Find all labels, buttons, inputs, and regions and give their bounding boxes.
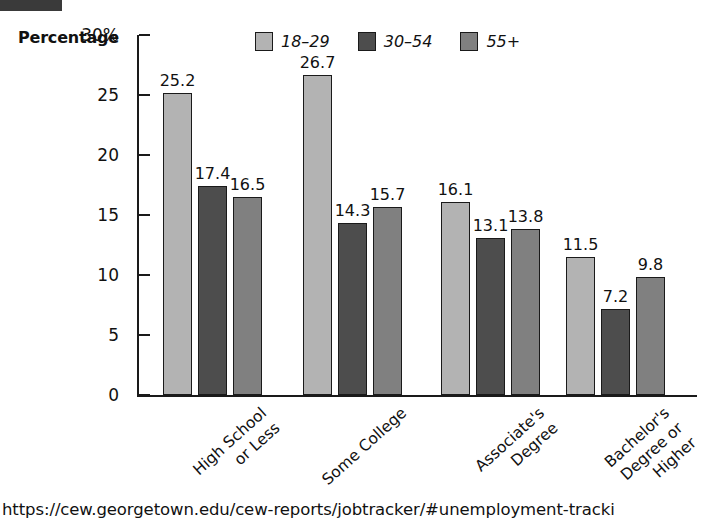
plot-area: 051015202530% 25.217.416.526.714.315.716… xyxy=(137,35,697,397)
y-tick-label: 0 xyxy=(0,385,119,405)
bar xyxy=(373,207,402,395)
top-bar-remnant xyxy=(0,0,62,11)
x-axis-line xyxy=(137,395,697,397)
bar xyxy=(198,186,227,395)
bar xyxy=(163,93,192,395)
bar xyxy=(338,223,367,395)
x-category-label: High Schoolor Less xyxy=(190,404,285,495)
bar xyxy=(476,238,505,395)
y-tick-label: 15 xyxy=(0,205,119,225)
bar-value-label: 25.2 xyxy=(148,71,208,90)
source-url: https://cew.georgetown.edu/cew-reports/j… xyxy=(2,500,615,519)
bar xyxy=(511,229,540,395)
y-tick-mark xyxy=(139,274,150,276)
bar-value-label: 16.5 xyxy=(218,175,278,194)
y-tick-mark xyxy=(139,214,150,216)
y-tick-label: 20 xyxy=(0,145,119,165)
x-category-label-line: Some College xyxy=(319,404,412,490)
y-axis-line xyxy=(137,35,139,397)
y-tick-label: 10 xyxy=(0,265,119,285)
bar-value-label: 26.7 xyxy=(288,53,348,72)
y-tick-mark xyxy=(139,94,150,96)
x-category-label: Bachelor'sDegree orHigher xyxy=(601,404,701,502)
bar xyxy=(303,75,332,395)
y-tick-label: 5 xyxy=(0,325,119,345)
y-tick-mark xyxy=(139,334,150,336)
bar-value-label: 15.7 xyxy=(358,185,418,204)
y-tick-label: 25 xyxy=(0,85,119,105)
bar xyxy=(233,197,262,395)
y-tick-mark xyxy=(139,34,150,36)
bar-value-label: 14.3 xyxy=(323,201,383,220)
bar-value-label: 7.2 xyxy=(586,287,646,306)
y-tick-label: 30% xyxy=(0,25,119,45)
bar xyxy=(601,309,630,395)
bar xyxy=(566,257,595,395)
bar-value-label: 11.5 xyxy=(551,235,611,254)
bar-value-label: 9.8 xyxy=(621,255,681,274)
bar-value-label: 13.8 xyxy=(496,207,556,226)
bar-value-label: 16.1 xyxy=(426,180,486,199)
y-tick-mark xyxy=(139,394,150,396)
chart-page: Percentage 18–29 30–54 55+ 051015202530%… xyxy=(0,0,713,520)
x-category-label: Some College xyxy=(319,404,412,490)
y-tick-mark xyxy=(139,154,150,156)
x-category-label: Associate'sDegree xyxy=(472,404,563,491)
